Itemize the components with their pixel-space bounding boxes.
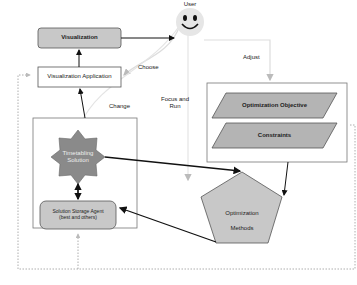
change-label: Change (109, 103, 130, 109)
optimization-methods-label: Optimization Methods (211, 206, 273, 236)
focus-run-line1: Focus and (153, 96, 197, 103)
optimization-methods-line1: Optimization (211, 206, 273, 221)
timetabling-line2: Solution (51, 157, 105, 164)
user-label: User (176, 1, 204, 7)
optimization-methods-line2: Methods (211, 221, 273, 236)
visualization-label: Visualization (38, 34, 121, 40)
adjust-label: Adjust (243, 54, 260, 60)
solution-storage-label: Solution Storage Agent (best and others) (40, 208, 116, 220)
timetabling-line1: Timetabling (51, 150, 105, 157)
optimization-objective-label: Optimization Objective (212, 102, 337, 108)
user-icon (176, 8, 204, 36)
timetabling-solution-label: Timetabling Solution (51, 150, 105, 164)
solution-storage-line2: (best and others) (40, 214, 116, 220)
focus-run-line2: Run (153, 103, 197, 110)
focus-run-label: Focus and Run (153, 96, 197, 110)
visualization-application-label: Visualization Application (38, 73, 121, 79)
diagram-canvas (0, 0, 357, 285)
choose-label: Choose (138, 64, 159, 70)
constraints-label: Constraints (212, 132, 337, 138)
